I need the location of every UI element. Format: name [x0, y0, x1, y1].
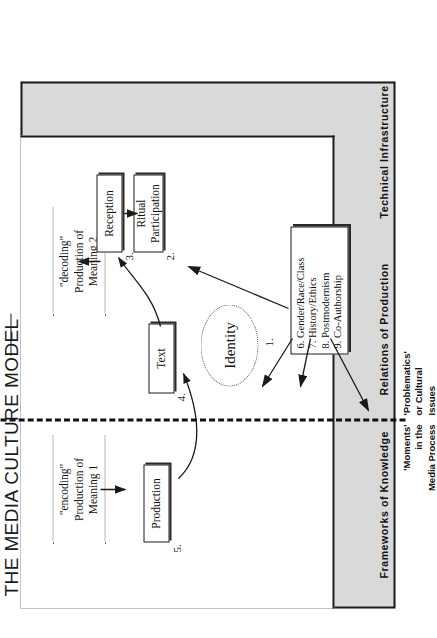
box-reception-label: Reception — [102, 190, 116, 237]
callout-decoding-line2: Production of — [71, 213, 86, 309]
callout-encoding: "encoding" Production of Meaning 1 — [52, 435, 105, 543]
box-ritual-line2: Participation — [148, 184, 162, 243]
box-production: Production — [143, 464, 169, 542]
box-text: Text — [148, 323, 174, 393]
callout-encoding-line2: Production of — [71, 441, 86, 537]
legend-moments-line1: 'Moments' — [400, 424, 412, 520]
title-rule — [10, 313, 11, 355]
number-4: 4. — [174, 393, 186, 401]
problematics-item-7: 7. History/Ethics — [306, 234, 318, 348]
frame-label-relations-of-production: Relations of Production — [377, 263, 389, 395]
number-3: 3. — [122, 252, 134, 260]
callout-encoding-line1: "encoding" — [56, 441, 71, 537]
page-title: THE MEDIA CULTURE MODEL — [0, 318, 22, 596]
number-2: 2. — [163, 252, 175, 260]
box-text-label: Text — [154, 348, 168, 368]
oval-identity: Identity — [200, 304, 258, 386]
legend-problematics-line2: or Cultural — [412, 315, 424, 415]
legend-problematics-line3: Issues — [425, 315, 437, 415]
legend-problematics: 'Problematics' or Cultural Issues — [400, 315, 437, 415]
moments-problematics-divider — [0, 418, 405, 421]
box-production-label: Production — [149, 478, 163, 528]
frame-label-technical-infrastructure: Technical Infrastructure — [377, 85, 389, 218]
oval-identity-label: Identity — [221, 322, 238, 369]
problematics-item-8: 8. Postmodernism — [319, 234, 331, 348]
frame-label-frameworks-of-knowledge: Frameworks of Knowledge — [377, 431, 389, 578]
legend-moments-line3: Media Process — [425, 424, 437, 520]
legend-moments-line2: in the — [412, 424, 424, 520]
legend-moments: 'Moments' in the Media Process — [400, 424, 437, 520]
number-1: 1. — [262, 338, 274, 346]
callout-decoding-line1: "decoding" — [56, 213, 71, 309]
problematics-list-box: 6. Gender/Race/Class 7. History/Ethics 8… — [290, 226, 348, 354]
callout-encoding-line3: Meaning 1 — [85, 441, 100, 537]
legend-problematics-line1: 'Problematics' — [400, 315, 412, 415]
box-ritual-participation: Ritual Participation — [133, 174, 163, 252]
problematics-item-6: 6. Gender/Race/Class — [294, 234, 306, 348]
problematics-item-9: 9. Co-Authorship — [331, 234, 343, 348]
number-5: 5. — [170, 544, 182, 552]
box-ritual-line1: Ritual — [134, 199, 148, 227]
box-reception: Reception — [96, 174, 122, 252]
